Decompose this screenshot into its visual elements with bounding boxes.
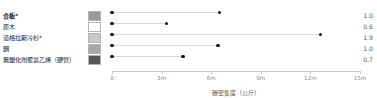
tick-mark <box>211 71 212 74</box>
row-label-3: 鋼 <box>3 45 9 53</box>
x-axis-title: 碳密集度（公斤） <box>112 88 360 97</box>
data-point-start <box>110 44 113 47</box>
lollipop-chart: 合板* 原木 道格拉斯冷杉* 鋼 無塑化劑聚氯乙烯（硬管） 03m6m9m12m… <box>0 0 377 98</box>
row-label-1: 原木 <box>3 23 15 31</box>
legend-swatch-1 <box>88 22 101 32</box>
row-label-2: 道格拉斯冷杉* <box>3 34 42 42</box>
tick-label: 15m <box>354 75 367 81</box>
connector-line <box>112 45 218 46</box>
tick-label: 6m <box>207 75 216 81</box>
row-value-2: 1.9 <box>363 34 373 42</box>
row-value-1: 0.6 <box>363 23 373 31</box>
tick-mark <box>162 71 163 74</box>
row-value-0: 1.0 <box>363 12 373 20</box>
row-value-4: 0.7 <box>363 56 373 64</box>
data-point-end <box>319 33 322 36</box>
data-point-start <box>110 11 113 14</box>
connector-line <box>112 56 183 57</box>
legend-swatch-2 <box>88 33 101 43</box>
tick-mark <box>261 71 262 74</box>
plot-area <box>112 10 360 70</box>
tick-label: 9m <box>256 75 265 81</box>
legend-swatch-4 <box>88 55 101 65</box>
data-point-start <box>110 33 113 36</box>
data-point-end <box>216 44 219 47</box>
data-point-start <box>110 22 113 25</box>
tick-mark <box>310 71 311 74</box>
connector-line <box>112 12 219 13</box>
data-point-end <box>181 55 184 58</box>
data-point-end <box>218 11 221 14</box>
data-point-end <box>165 22 168 25</box>
x-axis-line <box>112 71 360 72</box>
data-point-start <box>110 55 113 58</box>
row-value-3: 1.0 <box>363 45 373 53</box>
tick-mark <box>112 71 113 74</box>
row-label-0: 合板* <box>3 12 18 20</box>
tick-label: 3m <box>157 75 166 81</box>
tick-mark <box>360 71 361 74</box>
row-label-4: 無塑化劑聚氯乙烯（硬管） <box>3 56 75 64</box>
connector-line <box>112 23 167 24</box>
tick-label: 12m <box>304 75 317 81</box>
legend-swatch-3 <box>88 44 101 54</box>
connector-line <box>112 34 320 35</box>
legend-swatch-0 <box>88 11 101 21</box>
tick-label: 0 <box>110 75 114 81</box>
